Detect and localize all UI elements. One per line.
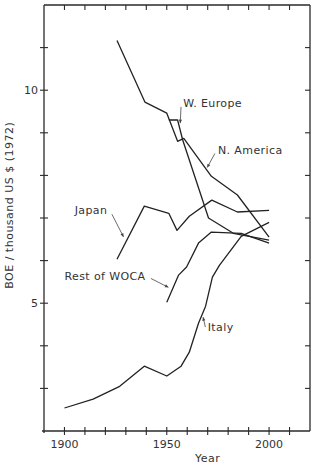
x-tick-label: 1900 [50, 438, 78, 451]
series-line-n-america [117, 40, 269, 237]
series-annotations: W. EuropeN. AmericaJapanRest of WOCAItal… [64, 97, 282, 334]
x-axis-tick-labels: 190019502000 [50, 438, 283, 451]
series-label-n-america: N. America [218, 144, 283, 157]
x-tick-label: 1950 [153, 438, 181, 451]
leader-arrow-japan [112, 214, 124, 237]
y-tick-label: 10 [24, 84, 38, 97]
series-label-italy: Italy [208, 321, 234, 334]
y-axis-tick-labels: 510 [24, 84, 38, 310]
series-label-w-europe: W. Europe [183, 97, 242, 110]
x-axis-title: Year [194, 452, 220, 465]
plot-frame [42, 5, 310, 433]
arrowhead-italy [202, 317, 205, 321]
series-lines [65, 40, 270, 408]
x-tick-label: 2000 [255, 438, 283, 451]
series-label-rest-of-woca: Rest of WOCA [64, 270, 145, 283]
y-axis-title: BOE / thousand US $ (1972) [3, 122, 16, 289]
series-label-japan: Japan [74, 204, 108, 217]
y-axis-ticks [40, 48, 310, 389]
y-tick-label: 5 [31, 297, 38, 310]
series-line-italy [65, 222, 270, 408]
series-line-japan [117, 200, 269, 259]
arrowhead-w-europe [179, 120, 182, 124]
line-chart: 190019502000 510 Year BOE / thousand US … [0, 0, 317, 468]
